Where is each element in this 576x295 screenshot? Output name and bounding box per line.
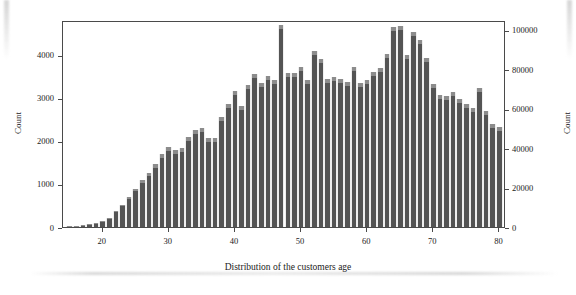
histogram-bar xyxy=(331,77,338,227)
histogram-bar-cap xyxy=(332,77,337,81)
x-axis-tick-label: 60 xyxy=(346,236,386,246)
x-axis-tick-mark xyxy=(432,228,433,232)
histogram-bar-cap xyxy=(252,74,257,78)
y-axis-right-tick-mark xyxy=(505,149,509,150)
histogram-bar xyxy=(218,117,225,227)
figure-canvas: 01000200030004000 Count 0200004000060000… xyxy=(0,0,576,295)
histogram-bar xyxy=(232,91,239,227)
histogram-bar-cap xyxy=(259,83,264,87)
histogram-bar xyxy=(278,25,285,227)
histogram-bar xyxy=(443,96,450,227)
histogram-bar-cap xyxy=(477,88,482,92)
histogram-bar-cap xyxy=(233,91,238,95)
histogram-bar xyxy=(251,74,258,227)
histogram-bar xyxy=(470,108,477,227)
histogram-bar xyxy=(126,197,133,227)
histogram-bar-cap xyxy=(74,226,79,227)
histogram-bar-cap xyxy=(107,218,112,219)
y-axis-right-tick-mark xyxy=(505,228,509,229)
histogram-bar xyxy=(165,147,172,227)
x-axis-tick-mark xyxy=(234,228,235,232)
y-axis-left-tick-mark xyxy=(58,185,62,186)
y-axis-left-tick-label: 4000 xyxy=(8,50,54,60)
histogram-bar-cap xyxy=(239,106,244,110)
y-axis-left-tick-mark xyxy=(58,56,62,57)
histogram-bar-cap xyxy=(457,99,462,103)
x-axis-tick-label: 30 xyxy=(148,236,188,246)
histogram-bar-cap xyxy=(411,32,416,36)
y-axis-left-tick-mark xyxy=(58,228,62,229)
histogram-bar-cap xyxy=(67,226,72,227)
histogram-bar xyxy=(351,67,358,227)
histogram-bar-cap xyxy=(305,80,310,84)
histogram-bar xyxy=(238,106,245,227)
histogram-bar-cap xyxy=(160,154,165,158)
histogram-bar xyxy=(86,224,93,227)
histogram-bar-cap xyxy=(173,150,178,154)
histogram-bar-cap xyxy=(279,25,284,29)
histogram-bar xyxy=(205,138,212,227)
y-axis-left-tick-label: 1000 xyxy=(8,179,54,189)
histogram-bar-cap xyxy=(358,83,363,87)
histogram-bar-cap xyxy=(398,26,403,30)
histogram-bar-cap xyxy=(147,173,152,176)
scan-artifact-right xyxy=(567,0,572,60)
histogram-bar xyxy=(225,104,232,227)
histogram-bar-cap xyxy=(385,54,390,58)
histogram-bar xyxy=(377,68,384,227)
histogram-bar-cap xyxy=(246,85,251,89)
y-axis-right-tick-label: 60000 xyxy=(512,104,533,114)
histogram-bar-cap xyxy=(87,224,92,225)
y-axis-left-tick-label: 3000 xyxy=(8,93,54,103)
plot-area xyxy=(62,21,505,228)
histogram-bar xyxy=(291,73,298,227)
histogram-bar-cap xyxy=(424,58,429,62)
histogram-bar-cap xyxy=(438,95,443,99)
histogram-bar-cap xyxy=(378,68,383,72)
histogram-bar-cap xyxy=(365,80,370,84)
histogram-bar xyxy=(476,88,483,227)
histogram-bar xyxy=(179,148,186,227)
histogram-bar-cap xyxy=(345,82,350,86)
histogram-bar xyxy=(384,54,391,227)
histogram-bar-cap xyxy=(100,221,105,222)
histogram-bar xyxy=(93,223,100,227)
histogram-bar-cap xyxy=(352,67,357,71)
histogram-bar xyxy=(364,80,371,227)
histogram-bar xyxy=(370,72,377,227)
histogram-bar-cap xyxy=(338,79,343,83)
histogram-bar xyxy=(258,83,265,227)
histogram-bar-cap xyxy=(114,211,119,212)
histogram-bar-cap xyxy=(127,197,132,199)
x-axis-tick-label: 70 xyxy=(412,236,452,246)
x-axis-tick-label: 50 xyxy=(280,236,320,246)
histogram-bar-cap xyxy=(312,51,317,55)
histogram-bar xyxy=(298,67,305,227)
histogram-bar xyxy=(106,218,113,227)
histogram-bar xyxy=(99,221,106,227)
histogram-bar-cap xyxy=(292,73,297,77)
histogram-bar xyxy=(113,211,120,227)
x-axis-tick-mark xyxy=(366,228,367,232)
y-axis-right-tick-label: 0 xyxy=(512,223,516,233)
histogram-bar-cap xyxy=(226,104,231,108)
x-axis-tick-mark xyxy=(102,228,103,232)
histogram-bar-cap xyxy=(140,180,145,183)
histogram-bar xyxy=(344,82,351,227)
histogram-bar xyxy=(437,95,444,227)
histogram-bar xyxy=(489,124,496,228)
histogram-bar xyxy=(80,225,87,227)
histogram-bar-cap xyxy=(266,76,271,80)
histogram-bar xyxy=(430,84,437,227)
histogram-bar-cap xyxy=(200,128,205,132)
histogram-bar-cap xyxy=(464,104,469,108)
y-axis-left-tick-label: 0 xyxy=(8,223,54,233)
histogram-bar-cap xyxy=(490,124,495,128)
histogram-bar xyxy=(397,26,404,227)
histogram-bar-cap xyxy=(391,27,396,31)
y-axis-right-tick-mark xyxy=(505,110,509,111)
histogram-bar xyxy=(192,130,199,227)
histogram-bar xyxy=(159,154,166,227)
histogram-bar-cap xyxy=(451,92,456,96)
histogram-bar xyxy=(410,32,417,227)
